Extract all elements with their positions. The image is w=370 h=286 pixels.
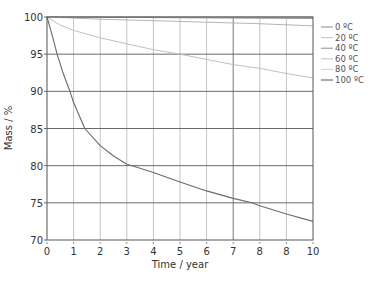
x-tick-label: 4 — [150, 246, 156, 257]
x-tick-label: 1 — [70, 246, 76, 257]
x-tick-label: 8 — [283, 246, 289, 257]
grid-lines — [47, 17, 313, 240]
x-tick-label: 0 — [44, 246, 50, 257]
x-axis-label: Time / year — [151, 259, 209, 270]
legend-label: 80 ºC — [335, 64, 359, 74]
y-tick-label: 80 — [30, 161, 43, 172]
legend: 0 ºC20 ºC40 ºC60 ºC80 ºC100 ºC — [321, 22, 364, 85]
y-tick-label: 95 — [30, 49, 43, 60]
x-tick-label: 7 — [230, 246, 236, 257]
legend-label: 20 ºC — [335, 33, 359, 43]
y-axis-label: Mass / % — [3, 106, 14, 150]
legend-label: 0 ºC — [335, 22, 353, 32]
y-tick-label: 75 — [30, 198, 43, 209]
y-axis-ticks: 707580859095100 — [24, 12, 47, 246]
y-tick-label: 85 — [30, 124, 43, 135]
x-axis-ticks: 012345678810 — [44, 242, 320, 257]
legend-label: 60 ºC — [335, 54, 359, 64]
y-tick-label: 90 — [30, 86, 43, 97]
legend-label: 100 ºC — [335, 75, 364, 85]
y-tick-label: 70 — [30, 235, 43, 246]
legend-label: 40 ºC — [335, 43, 359, 53]
x-tick-label: 8 — [257, 246, 263, 257]
x-tick-label: 6 — [203, 246, 209, 257]
x-tick-label: 5 — [177, 246, 183, 257]
y-tick-label: 100 — [24, 12, 43, 23]
mass-vs-time-chart: 012345678810 707580859095100 Time / year… — [0, 0, 370, 286]
x-tick-label: 10 — [307, 246, 320, 257]
x-tick-label: 3 — [124, 246, 130, 257]
x-tick-label: 2 — [97, 246, 103, 257]
